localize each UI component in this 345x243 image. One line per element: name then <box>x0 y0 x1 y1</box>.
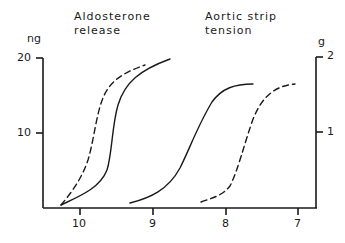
right-panel-title-line1: Aortic strip <box>205 10 277 23</box>
right-tick-label-1: 1 <box>327 126 334 138</box>
aldosterone-dashed-curve <box>61 65 145 205</box>
left-tick-label-20: 20 <box>17 52 31 64</box>
left-panel-title-line1: Aldosterone <box>74 10 151 23</box>
right-panel-title-line2: tension <box>205 24 253 37</box>
right-axis-unit: g <box>318 36 325 48</box>
x-tick-label-10: 10 <box>72 218 86 230</box>
left-axis-unit: ng <box>27 33 41 45</box>
chart-plot-area <box>0 0 345 243</box>
x-tick-label-8: 8 <box>222 218 229 230</box>
left-panel-title-line2: release <box>74 24 121 37</box>
right-tick-label-2: 2 <box>327 50 334 62</box>
aldosterone-solid-curve <box>61 59 170 205</box>
aortic-dashed-curve <box>201 84 295 202</box>
x-tick-label-7: 7 <box>294 218 301 230</box>
x-tick-label-9: 9 <box>149 218 156 230</box>
aortic-solid-curve <box>130 84 253 203</box>
dose-response-figure: Aldosterone release Aortic strip tension… <box>0 0 345 243</box>
left-tick-label-10: 10 <box>17 127 31 139</box>
